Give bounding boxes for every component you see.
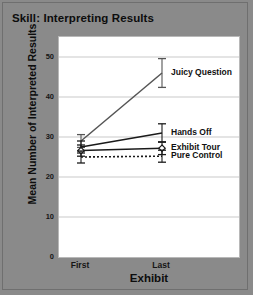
series-line [81, 156, 162, 157]
y-tick-label: 0 [38, 252, 54, 261]
series-line [81, 73, 162, 141]
y-tick-label: 10 [38, 212, 54, 221]
figure-panel: Skill: Interpreting Results Mean Number … [0, 0, 253, 295]
series-line [81, 133, 162, 147]
series-exhibit-tour [77, 142, 166, 156]
series-pure-control [77, 150, 166, 163]
x-tick-label: Last [152, 260, 169, 270]
series-label: Juicy Question [171, 67, 232, 77]
series-label: Hands Off [171, 127, 212, 137]
series-label: Pure Control [171, 150, 222, 160]
y-tick-label: 40 [38, 92, 54, 101]
y-tick-label: 30 [38, 132, 54, 141]
y-axis-label: Mean Number of Interpreted Results [26, 19, 38, 209]
x-axis-label: Exhibit [58, 272, 240, 284]
y-tick-label: 20 [38, 172, 54, 181]
series-line [81, 148, 162, 150]
y-tick-label: 50 [38, 52, 54, 61]
x-tick-label: First [71, 260, 89, 270]
